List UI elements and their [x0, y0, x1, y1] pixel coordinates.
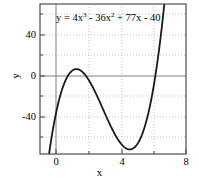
equation-tail: + 77x - 40 [114, 12, 160, 23]
equation-annotation: y = 4x3 - 36x2 + 77x - 40 [56, 12, 161, 23]
chart-figure: y = 4x3 - 36x2 + 77x - 40 0 4 8 40 0 -40… [0, 0, 199, 187]
equation-lead: y = 4x [56, 12, 83, 23]
x-axis-title: x [0, 166, 199, 178]
y-tick-label-40: 40 [10, 29, 36, 40]
equation-mid: - 36x [86, 12, 111, 23]
y-axis-title: y [9, 56, 21, 96]
y-tick-label-minus-40: -40 [10, 111, 36, 122]
